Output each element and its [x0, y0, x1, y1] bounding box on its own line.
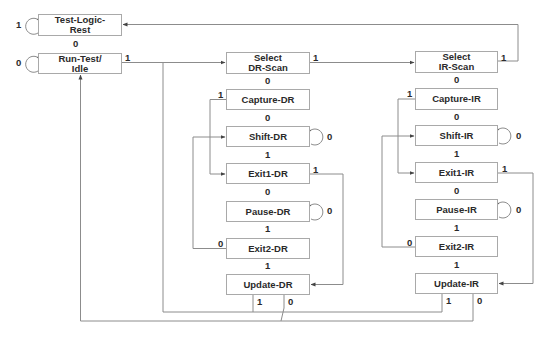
transition-label: 0: [454, 75, 459, 85]
state-capture-ir: Capture-IR: [415, 88, 498, 110]
loop-pauseir: [499, 202, 511, 218]
state-shift-dr: Shift-DR: [226, 126, 310, 147]
transition-label: 1: [16, 20, 21, 30]
transition-label: 0: [454, 112, 459, 122]
state-pause-ir: Pause-IR: [415, 199, 498, 220]
state-label: Capture-DR: [242, 95, 295, 105]
transition-label: 1: [265, 261, 270, 271]
transition-label: 1: [502, 164, 507, 174]
transition-label: 1: [446, 296, 451, 306]
state-label: DR-Scan: [248, 63, 288, 73]
transition-label: 0: [73, 39, 78, 49]
transition-label: 0: [265, 113, 270, 123]
loop-tlr: [26, 18, 38, 34]
state-exit2-ir: Exit2-IR: [415, 236, 498, 257]
state-label: Shift-IR: [440, 131, 474, 141]
state-capture-dr: Capture-DR: [226, 89, 310, 110]
transition-label: 0: [265, 187, 270, 197]
transition-label: 0: [516, 131, 521, 141]
transition-label: 0: [218, 239, 223, 249]
state-label: Exit1-IR: [439, 168, 474, 178]
wire-exit1ir-to-updateir: [498, 173, 533, 284]
state-test-logic-reset: Test-Logic- Rest: [38, 14, 122, 36]
state-label: Shift-DR: [249, 132, 287, 142]
state-label: Idle: [72, 64, 88, 74]
wire-exit1dr-to-updatedr: [310, 174, 343, 285]
loop-rti: [26, 56, 38, 72]
transition-label: 1: [218, 90, 223, 100]
loop-shiftdr: [311, 129, 323, 145]
transition-label: 1: [501, 53, 506, 63]
state-label: Exit1-DR: [248, 169, 288, 179]
state-update-ir: Update-IR: [415, 273, 498, 294]
transition-label: 0: [265, 76, 270, 86]
state-exit1-dr: Exit1-DR: [226, 163, 310, 184]
state-update-dr: Update-DR: [226, 274, 310, 295]
state-label: Update-IR: [434, 279, 479, 289]
state-run-test-idle: Run-Test/ Idle: [38, 53, 122, 74]
state-exit1-ir: Exit1-IR: [415, 162, 498, 183]
state-pause-dr: Pause-DR: [226, 201, 310, 222]
state-label: Pause-DR: [246, 207, 291, 217]
loop-shiftir: [499, 128, 511, 144]
transition-label: 1: [125, 53, 130, 63]
state-select-ir-scan: Select IR-Scan: [415, 51, 498, 73]
state-label: Capture-IR: [432, 94, 481, 104]
transition-label: 1: [454, 149, 459, 159]
transition-label: 1: [313, 165, 318, 175]
state-label: IR-Scan: [439, 62, 474, 72]
state-label: Exit2-IR: [439, 242, 474, 252]
transition-label: 0: [516, 205, 521, 215]
state-label: Rest: [70, 25, 91, 35]
transition-label: 1: [407, 89, 412, 99]
transition-label: 0: [477, 296, 482, 306]
state-label: Run-Test/: [58, 54, 101, 64]
state-label: Pause-IR: [436, 205, 477, 215]
wire-updatedr-0: [281, 295, 284, 321]
transition-label: 0: [454, 186, 459, 196]
transition-label: 1: [454, 260, 459, 270]
transition-label: 1: [257, 297, 262, 307]
transition-label: 0: [407, 238, 412, 248]
transition-label: 0: [16, 58, 21, 68]
jtag-tap-state-diagram: Test-Logic- Rest Run-Test/ Idle Select D…: [0, 0, 549, 338]
transition-label: 1: [313, 53, 318, 63]
loop-pausedr: [311, 204, 323, 220]
transition-label: 0: [288, 297, 293, 307]
state-label: Update-DR: [243, 280, 292, 290]
transition-label: 1: [454, 223, 459, 233]
transition-label: 0: [327, 206, 332, 216]
state-exit2-dr: Exit2-DR: [226, 238, 310, 259]
transition-label: 0: [327, 132, 332, 142]
state-select-dr-scan: Select DR-Scan: [226, 52, 310, 74]
transition-label: 1: [265, 150, 270, 160]
transition-label: 1: [265, 224, 270, 234]
state-label: Exit2-DR: [248, 244, 288, 254]
state-shift-ir: Shift-IR: [415, 125, 498, 146]
